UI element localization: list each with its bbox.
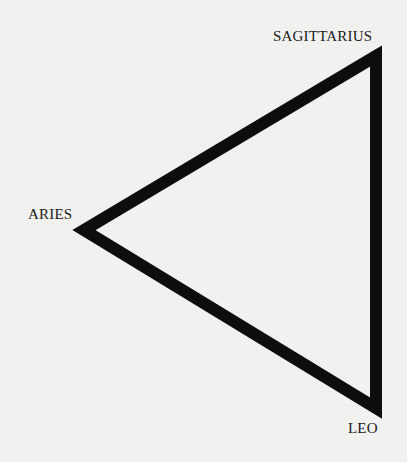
vertex-label-sagittarius: SAGITTARIUS [273,28,372,45]
page-background: SAGITTARIUS ARIES LEO [0,0,407,462]
fire-trine-triangle [0,0,407,462]
vertex-label-aries: ARIES [28,206,72,223]
triangle-shape [84,56,376,408]
vertex-label-leo: LEO [348,420,378,437]
